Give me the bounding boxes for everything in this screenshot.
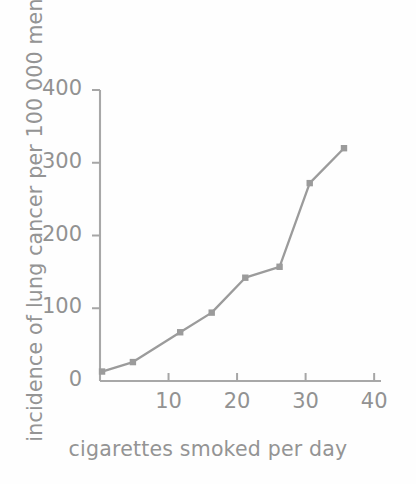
x-axis-ticks [169, 373, 375, 381]
data-point-marker [209, 309, 215, 315]
series-markers [99, 145, 347, 375]
data-point-marker [242, 275, 248, 281]
data-point-marker [130, 359, 136, 365]
chart-figure: incidence of lung cancer per 100 000 men… [0, 0, 416, 484]
y-axis-tick-label: 0 [20, 367, 82, 391]
x-axis-tick-label: 40 [349, 389, 399, 413]
y-axis-tick-label: 100 [20, 294, 82, 318]
data-point-marker [177, 329, 183, 335]
x-axis-title-text: cigarettes smoked per day [0, 437, 416, 461]
data-point-marker [276, 264, 282, 270]
data-point-marker [99, 368, 105, 374]
x-axis-tick-label: 10 [144, 389, 194, 413]
y-axis-tick-label: 200 [20, 222, 82, 246]
data-point-marker [341, 145, 347, 151]
x-axis-tick-label: 30 [281, 389, 331, 413]
data-series-group [99, 145, 347, 375]
data-point-marker [307, 180, 313, 186]
y-axis-tick-label: 400 [20, 76, 82, 100]
axis-lines [100, 90, 381, 381]
y-axis-tick-label: 300 [20, 149, 82, 173]
y-axis-ticks [92, 90, 100, 308]
x-axis-tick-label: 20 [212, 389, 262, 413]
